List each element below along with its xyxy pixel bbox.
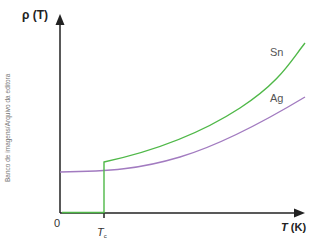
ag-curve <box>60 97 305 172</box>
y-axis-unit: (T) <box>33 8 48 22</box>
x-axis-label: T (K) <box>281 221 306 233</box>
x-axis-unit: (K) <box>291 221 306 233</box>
y-axis-symbol: ρ <box>22 8 29 22</box>
origin-label: 0 <box>54 217 60 229</box>
tc-subscript: c <box>104 233 107 239</box>
ag-series-label: Ag <box>270 92 283 104</box>
tc-symbol: T <box>97 226 104 238</box>
sn-curve <box>62 43 305 213</box>
y-axis-label: ρ (T) <box>22 8 48 22</box>
y-axis-arrow-icon <box>56 14 65 25</box>
image-credit: Banco de imagens/Arquivo da editora <box>4 74 11 182</box>
x-axis-symbol: T <box>281 221 288 233</box>
sn-series-label: Sn <box>270 46 283 58</box>
x-axis-arrow-icon <box>294 209 305 218</box>
chart-canvas <box>0 0 329 247</box>
tc-label: Tc <box>97 226 107 239</box>
